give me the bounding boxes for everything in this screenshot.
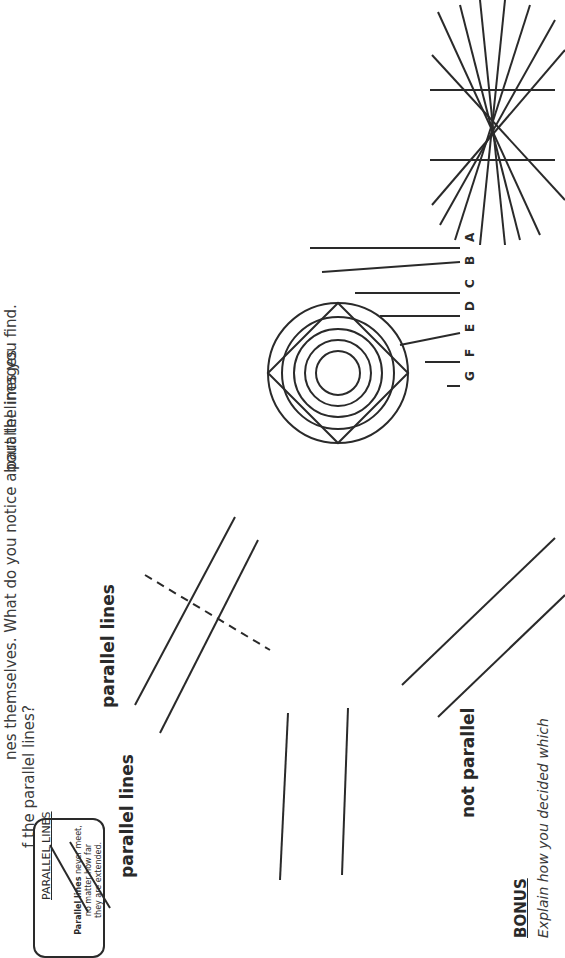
- lines-a-to-g: [310, 240, 460, 386]
- starburst-figure: [430, 0, 565, 245]
- not-parallel-lines: [402, 538, 565, 717]
- definition-box-lines-icon: [50, 842, 110, 912]
- parallel-lines-pair-bottom: [280, 708, 348, 880]
- parallel-lines-with-transversal: [135, 517, 270, 733]
- circles-diamond-figure: [268, 303, 408, 443]
